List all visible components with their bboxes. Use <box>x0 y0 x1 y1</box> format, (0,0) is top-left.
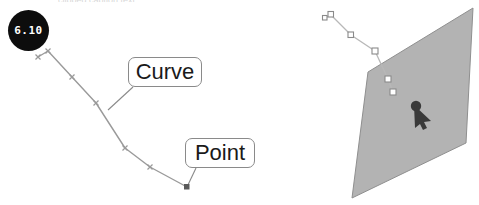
figure-number-badge-610: 6.10 <box>8 10 49 51</box>
plane-point-marker[interactable] <box>328 12 334 18</box>
curve-vertex-marker[interactable] <box>70 75 75 80</box>
plane-point-marker[interactable] <box>372 48 378 54</box>
curve-vertex-marker[interactable] <box>123 146 128 151</box>
panel-figure-611: 6.11 <box>250 0 479 205</box>
plane-point-markers <box>323 12 397 96</box>
figure-canvas: clipped caption text <box>0 0 479 205</box>
curve-vertex-marker[interactable] <box>148 165 153 170</box>
curve-vertex-marker[interactable] <box>36 55 41 60</box>
curve-vertex-marker[interactable] <box>94 101 99 106</box>
plane-point-marker[interactable] <box>323 16 328 21</box>
selected-point-marker[interactable] <box>184 184 190 190</box>
point-callout-label[interactable]: Point <box>185 138 255 168</box>
plane-point-marker[interactable] <box>390 89 396 95</box>
plane-point-marker[interactable] <box>385 76 391 82</box>
plane-diagram-svg <box>250 0 479 205</box>
curve-callout-label[interactable]: Curve <box>128 57 202 87</box>
plane-point-marker[interactable] <box>348 32 354 38</box>
curve-vertex-marker[interactable] <box>46 49 51 54</box>
curve-leader-line <box>108 87 133 110</box>
panel-figure-610: 6.10 Curve Point <box>0 0 250 205</box>
